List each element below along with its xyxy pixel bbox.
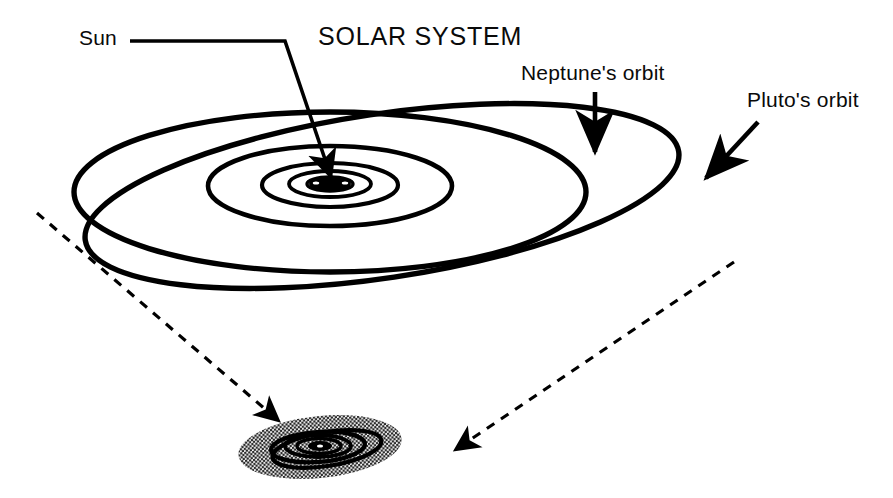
solar-system-figure: SOLAR SYSTEM Sun Neptune's orbit Pluto's… (0, 0, 893, 498)
zoom-dashed-right (455, 262, 734, 450)
page-title: SOLAR SYSTEM (318, 24, 522, 49)
sun-glint-right (342, 182, 348, 185)
pluto-arrow-line (706, 122, 758, 178)
solar-system-illustration (0, 0, 893, 498)
label-pluto-orbit: Pluto's orbit (747, 89, 859, 110)
sun-glint-left (313, 182, 319, 185)
inset-solar-system (235, 408, 405, 487)
inset-sun-glint (317, 444, 323, 447)
zoom-dashed-left (37, 213, 279, 421)
label-sun: Sun (79, 27, 117, 48)
label-neptune-orbit: Neptune's orbit (521, 62, 665, 83)
sun-leader-line (130, 41, 331, 177)
main-orbit-system (73, 71, 691, 322)
pluto-orbit-ellipse (73, 71, 691, 322)
